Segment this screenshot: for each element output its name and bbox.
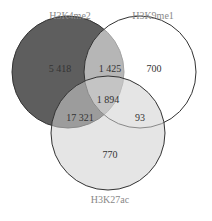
region-h3k9me1-h3k27ac: 93: [135, 112, 145, 123]
region-h3k9me1-only: 700: [147, 63, 162, 74]
set-label-h3k27ac: H3K27ac: [91, 194, 129, 205]
set-label-h3k9me1: H3K9me1: [132, 10, 174, 21]
region-h3k4me2-h3k27ac: 17 321: [66, 112, 94, 123]
region-h3k27ac-only: 770: [103, 149, 118, 160]
region-h3k4me2-only: 5 418: [49, 63, 72, 74]
region-h3k4me2-h3k9me1: 1 425: [99, 63, 122, 74]
venn-diagram: [0, 0, 212, 221]
region-all-three: 1 894: [97, 94, 120, 105]
set-label-h3k4me2: H3K4me2: [49, 10, 91, 21]
